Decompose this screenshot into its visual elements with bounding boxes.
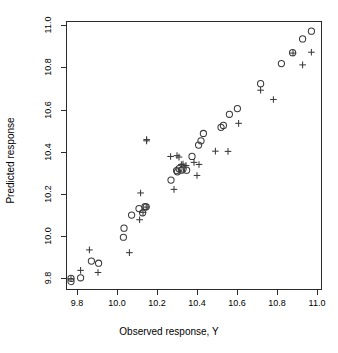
x-axis-tick — [197, 290, 198, 295]
x-axis-tick — [77, 290, 78, 295]
y-axis-tick-label: 9.8 — [43, 272, 54, 285]
y-axis-tick — [61, 194, 66, 195]
x-axis-tick-label: 10.8 — [268, 298, 286, 309]
x-axis-tick-label: 10.4 — [188, 298, 206, 309]
x-axis-tick-label: 10.2 — [148, 298, 166, 309]
y-axis-title: Predicted response — [5, 117, 16, 203]
y-axis-tick-label: 10.0 — [43, 227, 54, 245]
y-axis-tick — [61, 67, 66, 68]
y-axis-tick-label: 10.6 — [43, 101, 54, 119]
y-axis-tick — [61, 25, 66, 26]
y-axis-tick-label: 10.2 — [43, 185, 54, 203]
x-axis-tick-label: 10.6 — [228, 298, 246, 309]
y-axis-tick — [61, 236, 66, 237]
x-axis-tick-label: 11.0 — [309, 298, 326, 309]
y-axis-tick-label: 10.4 — [43, 143, 54, 161]
y-axis-tick — [61, 152, 66, 153]
plot-frame — [66, 21, 322, 290]
x-axis-tick-label: 10.0 — [108, 298, 126, 309]
scatter-plot: 9.810.010.210.410.610.811.0 9.810.010.21… — [0, 0, 338, 353]
x-axis-tick — [277, 290, 278, 295]
x-axis-tick-label: 9.8 — [71, 298, 84, 309]
x-axis-tick — [117, 290, 118, 295]
x-axis-tick — [237, 290, 238, 295]
x-axis-tick — [157, 290, 158, 295]
x-axis-tick — [317, 290, 318, 295]
y-axis-tick — [61, 110, 66, 111]
x-axis-title: Observed response, Y — [0, 326, 338, 337]
y-axis-tick-label: 11.0 — [43, 17, 54, 34]
y-axis-tick-label: 10.8 — [43, 59, 54, 77]
y-axis-tick — [61, 278, 66, 279]
